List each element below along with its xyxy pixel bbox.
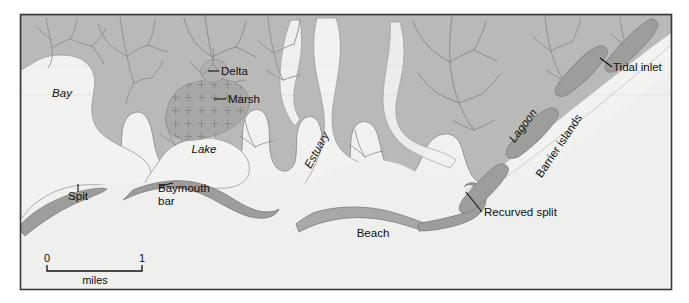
label-lake: Lake	[192, 143, 217, 155]
label-delta: Delta	[221, 65, 248, 77]
label-marsh: Marsh	[228, 93, 260, 105]
label-baymouth-bar-line1: Baymouth	[158, 182, 210, 194]
label-tidal-inlet: Tidal inlet	[613, 61, 663, 73]
scale-bar-end-label: 1	[139, 252, 145, 264]
label-baymouth-bar-line2: bar	[158, 195, 175, 207]
scale-bar-start-label: 0	[44, 252, 50, 264]
map-content: Bay Lake Estuary Lagoon Delta Marsh Tida…	[21, 15, 671, 289]
coastal-landforms-figure: Bay Lake Estuary Lagoon Delta Marsh Tida…	[0, 0, 689, 303]
scale-bar-unit-label: miles	[82, 274, 108, 286]
label-recurved-split: Recurved split	[484, 206, 558, 218]
map-canvas: Bay Lake Estuary Lagoon Delta Marsh Tida…	[0, 0, 689, 303]
label-bay: Bay	[52, 87, 73, 99]
label-spit: Spit	[68, 190, 89, 202]
label-beach: Beach	[357, 227, 390, 239]
